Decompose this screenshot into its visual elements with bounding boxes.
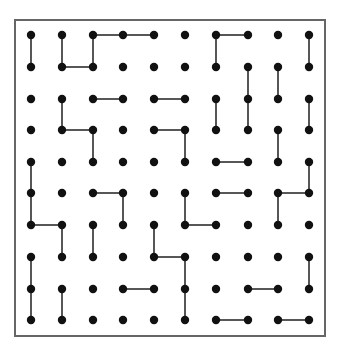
grid-dot[interactable]	[58, 126, 66, 134]
grid-dot[interactable]	[58, 285, 66, 293]
grid-dot[interactable]	[305, 189, 313, 197]
grid-dot[interactable]	[27, 189, 35, 197]
grid-dot[interactable]	[274, 253, 282, 261]
grid-dot[interactable]	[181, 95, 189, 103]
dot-grid-board[interactable]	[0, 0, 344, 354]
grid-dot[interactable]	[244, 285, 252, 293]
grid-dot[interactable]	[27, 95, 35, 103]
grid-dot[interactable]	[181, 126, 189, 134]
grid-dot[interactable]	[274, 158, 282, 166]
grid-dot[interactable]	[27, 63, 35, 71]
grid-dot[interactable]	[58, 63, 66, 71]
grid-dot[interactable]	[89, 31, 97, 39]
grid-dot[interactable]	[27, 158, 35, 166]
grid-dot[interactable]	[27, 285, 35, 293]
grid-dot[interactable]	[181, 285, 189, 293]
grid-dot[interactable]	[212, 221, 220, 229]
grid-dot[interactable]	[305, 316, 313, 324]
grid-dot[interactable]	[274, 221, 282, 229]
grid-dot[interactable]	[181, 221, 189, 229]
grid-dot[interactable]	[244, 221, 252, 229]
grid-dot[interactable]	[274, 285, 282, 293]
grid-dot[interactable]	[181, 253, 189, 261]
grid-dot[interactable]	[150, 95, 158, 103]
grid-dot[interactable]	[274, 189, 282, 197]
grid-dot[interactable]	[58, 253, 66, 261]
grid-dot[interactable]	[58, 189, 66, 197]
grid-dot[interactable]	[89, 316, 97, 324]
grid-dot[interactable]	[244, 126, 252, 134]
grid-dot[interactable]	[119, 95, 127, 103]
grid-dot[interactable]	[119, 31, 127, 39]
grid-dot[interactable]	[150, 189, 158, 197]
grid-dot[interactable]	[27, 253, 35, 261]
grid-dot[interactable]	[150, 253, 158, 261]
grid-dot[interactable]	[150, 63, 158, 71]
grid-dot[interactable]	[212, 285, 220, 293]
grid-dot[interactable]	[305, 95, 313, 103]
grid-dot[interactable]	[274, 316, 282, 324]
grid-dot[interactable]	[58, 316, 66, 324]
grid-dot[interactable]	[119, 63, 127, 71]
grid-dot[interactable]	[150, 158, 158, 166]
grid-dot[interactable]	[89, 253, 97, 261]
grid-dot[interactable]	[305, 221, 313, 229]
grid-dot[interactable]	[119, 285, 127, 293]
grid-dot[interactable]	[58, 31, 66, 39]
grid-dot[interactable]	[212, 316, 220, 324]
grid-dot[interactable]	[181, 316, 189, 324]
grid-dot[interactable]	[244, 31, 252, 39]
grid-dot[interactable]	[244, 253, 252, 261]
grid-dot[interactable]	[119, 189, 127, 197]
grid-dot[interactable]	[119, 221, 127, 229]
grid-dot[interactable]	[150, 221, 158, 229]
grid-dot[interactable]	[150, 285, 158, 293]
grid-dot[interactable]	[212, 158, 220, 166]
grid-dot[interactable]	[212, 63, 220, 71]
grid-dot[interactable]	[274, 126, 282, 134]
grid-dot[interactable]	[244, 95, 252, 103]
grid-dot[interactable]	[305, 63, 313, 71]
grid-dot[interactable]	[305, 158, 313, 166]
grid-dot[interactable]	[305, 285, 313, 293]
grid-dot[interactable]	[274, 95, 282, 103]
grid-dot[interactable]	[89, 189, 97, 197]
grid-dot[interactable]	[150, 316, 158, 324]
grid-dot[interactable]	[274, 31, 282, 39]
grid-dot[interactable]	[181, 31, 189, 39]
grid-dot[interactable]	[305, 253, 313, 261]
grid-dot[interactable]	[244, 189, 252, 197]
grid-dot[interactable]	[119, 126, 127, 134]
grid-dot[interactable]	[181, 158, 189, 166]
grid-dot[interactable]	[89, 221, 97, 229]
grid-dot[interactable]	[212, 189, 220, 197]
grid-dot[interactable]	[89, 158, 97, 166]
grid-dot[interactable]	[119, 158, 127, 166]
grid-dot[interactable]	[27, 316, 35, 324]
grid-dot[interactable]	[274, 63, 282, 71]
grid-dot[interactable]	[89, 126, 97, 134]
grid-dot[interactable]	[212, 126, 220, 134]
grid-dot[interactable]	[27, 221, 35, 229]
grid-dot[interactable]	[119, 253, 127, 261]
grid-dot[interactable]	[27, 31, 35, 39]
grid-dot[interactable]	[150, 126, 158, 134]
grid-dot[interactable]	[119, 316, 127, 324]
grid-dot[interactable]	[89, 95, 97, 103]
grid-dot[interactable]	[89, 63, 97, 71]
grid-dot[interactable]	[181, 189, 189, 197]
grid-dot[interactable]	[58, 158, 66, 166]
grid-dot[interactable]	[58, 221, 66, 229]
grid-dot[interactable]	[27, 126, 35, 134]
grid-dot[interactable]	[212, 95, 220, 103]
grid-dot[interactable]	[244, 158, 252, 166]
grid-dot[interactable]	[89, 285, 97, 293]
grid-dot[interactable]	[244, 316, 252, 324]
grid-dot[interactable]	[212, 253, 220, 261]
grid-dot[interactable]	[58, 95, 66, 103]
grid-dot[interactable]	[244, 63, 252, 71]
grid-dot[interactable]	[212, 31, 220, 39]
grid-dot[interactable]	[150, 31, 158, 39]
grid-dot[interactable]	[305, 126, 313, 134]
grid-dot[interactable]	[305, 31, 313, 39]
